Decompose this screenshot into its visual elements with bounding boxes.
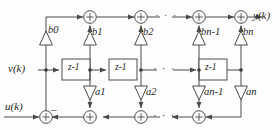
label-delay-1: z-1 xyxy=(68,63,80,73)
gain-bn-subscript: n xyxy=(248,26,253,37)
gain-a1-subscript: 1 xyxy=(100,86,105,97)
gain-b2-subscript: 2 xyxy=(148,26,153,37)
label-gain-bn: bn xyxy=(243,27,254,38)
label-feedback-sign: – xyxy=(51,104,57,115)
label-output-yk: y(k) xyxy=(253,10,270,21)
filter-block-diagram: y(k) v(k) u(k) – b0 b1 b2 bn-1 bn a1 a2 … xyxy=(0,0,280,130)
diagram-wires xyxy=(0,0,280,130)
label-gain-an: an xyxy=(246,87,257,98)
gain-bn1-subscript: n-1 xyxy=(206,26,220,37)
label-gain-a2: a2 xyxy=(146,87,157,98)
wire-an-down-and-left xyxy=(206,100,241,117)
gain-b0-subscript: 0 xyxy=(53,24,58,35)
label-gain-b1: b1 xyxy=(92,27,103,38)
gain-a2-subscript: 2 xyxy=(151,86,156,97)
label-delay-n: z-1 xyxy=(205,63,217,73)
label-gain-b0: b0 xyxy=(48,25,59,36)
label-state-vk: v(k) xyxy=(8,63,25,74)
label-input-uk: u(k) xyxy=(5,101,23,112)
delay-1-exponent: -1 xyxy=(72,62,80,72)
label-gain-bn1: bn-1 xyxy=(201,27,220,38)
label-gain-b2: b2 xyxy=(143,27,154,38)
gain-an-subscript: n xyxy=(251,86,256,97)
ellipsis-middle: · · · xyxy=(153,62,176,74)
ellipsis-bottom: · · · xyxy=(153,109,176,121)
gain-an1-subscript: n-1 xyxy=(209,86,223,97)
gain-b1-subscript: 1 xyxy=(97,26,102,37)
label-delay-2: z-1 xyxy=(115,63,127,73)
delay-n-exponent: -1 xyxy=(209,62,217,72)
label-gain-a1: a1 xyxy=(95,87,106,98)
ellipsis-top: · · · xyxy=(155,9,178,21)
label-gain-an1: an-1 xyxy=(204,87,223,98)
delay-2-exponent: -1 xyxy=(119,62,127,72)
